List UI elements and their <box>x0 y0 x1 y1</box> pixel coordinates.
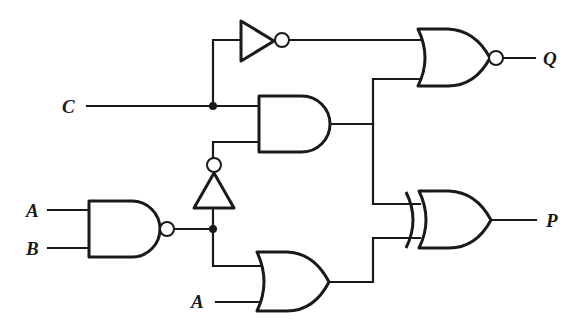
wire-nand-to-or <box>213 229 263 266</box>
nand-gate <box>89 201 174 257</box>
inversion-bubble <box>160 222 174 236</box>
wire-and-to-xor <box>373 124 420 204</box>
input-label-a-bottom: A <box>190 291 204 312</box>
xor-gate <box>406 191 491 248</box>
and-gate <box>259 96 330 152</box>
inversion-bubble <box>489 51 503 65</box>
nor-gate <box>418 29 503 86</box>
junction-dot-c <box>209 102 217 110</box>
input-label-c: C <box>62 96 75 117</box>
inversion-bubble <box>275 33 289 47</box>
wire-c-to-not-upper <box>213 40 240 106</box>
wire-not-middle-to-and <box>213 142 259 158</box>
input-label-b: B <box>25 238 39 259</box>
inversion-bubble <box>207 158 221 172</box>
logic-circuit-diagram: C A B A Q P <box>0 0 584 334</box>
output-label-p: P <box>545 210 558 231</box>
or-gate <box>257 252 329 311</box>
not-gate-middle <box>194 158 234 208</box>
not-gate-upper <box>241 21 289 61</box>
output-label-q: Q <box>543 48 557 69</box>
input-label-a-top: A <box>25 200 39 221</box>
junction-dot-nand <box>209 225 217 233</box>
